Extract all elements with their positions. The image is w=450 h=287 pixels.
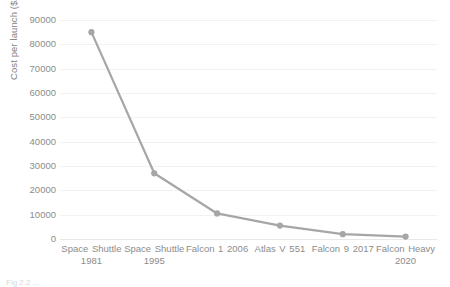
x-axis-tick-label: Falcon Heavy2020	[374, 243, 437, 267]
y-axis-tick-label: 80000	[4, 39, 56, 49]
y-axis-tick-labels: 0100002000030000400005000060000700008000…	[0, 20, 56, 239]
y-axis-tick-label: 50000	[4, 112, 56, 122]
y-axis-tick-label: 40000	[4, 137, 56, 147]
series-line	[60, 20, 437, 239]
x-axis-tick-labels: Space Shuttle1981Space Shuttle1995Falcon…	[60, 243, 437, 283]
x-axis-tick-label-line: 2020	[374, 255, 437, 267]
data-point-marker	[277, 223, 283, 229]
x-axis-tick-label-line: Space Shuttle	[123, 243, 186, 255]
series-polyline	[91, 32, 405, 236]
x-axis-tick-label: Falcon 1 2006	[186, 243, 249, 255]
y-axis-tick-label: 20000	[4, 185, 56, 195]
x-axis-tick-label-line: Falcon 9 2017	[311, 243, 374, 255]
x-axis-tick-label-line: Atlas V 551	[249, 243, 312, 255]
x-axis-tick-label: Space Shuttle1995	[123, 243, 186, 267]
y-axis-tick-label: 30000	[4, 161, 56, 171]
x-axis-tick-label-line: Falcon Heavy	[374, 243, 437, 255]
data-point-marker	[402, 233, 408, 239]
x-axis-tick-label: Atlas V 551	[249, 243, 312, 255]
y-axis-tick-label: 60000	[4, 88, 56, 98]
x-axis-tick-label: Space Shuttle1981	[60, 243, 123, 267]
gridline	[60, 239, 437, 240]
y-axis-tick-label: 0	[4, 234, 56, 244]
y-axis-tick-label: 10000	[4, 210, 56, 220]
x-axis-tick-label-line: Falcon 1 2006	[186, 243, 249, 255]
y-axis-tick-label: 70000	[4, 64, 56, 74]
data-point-marker	[214, 210, 220, 216]
x-axis-tick-label-line: 1981	[60, 255, 123, 267]
x-axis-tick-label: Falcon 9 2017	[311, 243, 374, 255]
y-axis-tick-label: 90000	[4, 15, 56, 25]
x-axis-tick-label-line: 1995	[123, 255, 186, 267]
plot-area	[60, 20, 437, 239]
data-point-marker	[151, 170, 157, 176]
data-point-marker	[340, 231, 346, 237]
x-axis-tick-label-line: Space Shuttle	[60, 243, 123, 255]
data-point-marker	[88, 29, 94, 35]
figure-caption: Fig 2.2 ...	[6, 278, 39, 287]
